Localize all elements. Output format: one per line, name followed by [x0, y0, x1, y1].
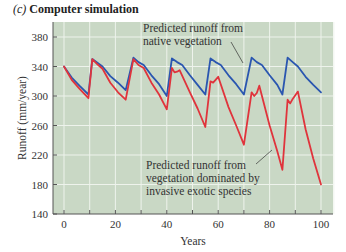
y-tick-label: 220 [32, 149, 49, 161]
x-tick-label: 60 [213, 218, 225, 230]
x-tick-label: 0 [61, 218, 67, 230]
y-tick-label: 260 [32, 120, 49, 132]
y-tick-label: 340 [32, 61, 49, 73]
runoff-line-chart: 140180220260300340380 020406080100 Runof… [0, 0, 346, 252]
y-tick-label: 380 [32, 31, 49, 43]
y-tick-label: 300 [32, 90, 49, 102]
y-axis-title: Runoff (mm/year) [16, 76, 29, 160]
invasive-annotation-line1: Predicted runoff from [146, 159, 246, 171]
y-tick-label: 180 [32, 179, 49, 191]
x-tick-label: 40 [161, 218, 173, 230]
x-tick-label: 20 [110, 218, 122, 230]
x-tick-label: 80 [264, 218, 276, 230]
native-annotation-line1: Predicted runoff from [143, 22, 243, 34]
x-axis-title: Years [180, 235, 206, 247]
y-tick-label: 140 [32, 208, 49, 220]
x-tick-label: 100 [313, 218, 330, 230]
invasive-annotation-line3: invasive exotic species [146, 185, 252, 198]
native-annotation-line2: native vegetation [143, 35, 222, 48]
invasive-annotation-line2: vegetation dominated by [146, 172, 260, 185]
